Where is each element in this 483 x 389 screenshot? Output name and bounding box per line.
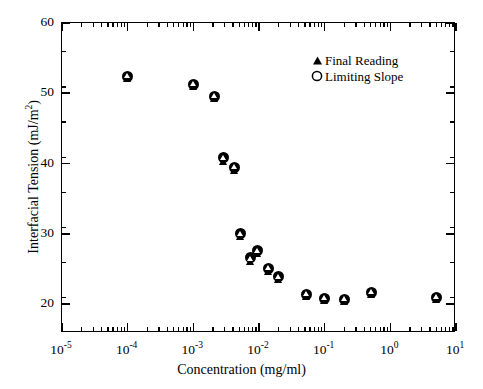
x-axis-minor-tick bbox=[158, 23, 159, 27]
x-axis-title: Concentration (mg/ml) bbox=[0, 362, 483, 378]
x-axis-minor-tick bbox=[186, 327, 187, 331]
x-axis-minor-tick bbox=[355, 327, 356, 331]
triangle-marker-inner bbox=[247, 256, 253, 261]
x-axis-minor-tick bbox=[304, 327, 305, 331]
x-axis-minor-tick bbox=[167, 327, 168, 331]
x-axis-minor-tick bbox=[248, 23, 249, 27]
triangle-marker bbox=[264, 267, 272, 275]
x-axis-minor-tick bbox=[445, 327, 446, 331]
x-axis-minor-tick bbox=[93, 23, 94, 27]
triangle-marker bbox=[320, 296, 328, 304]
y-axis-minor-tick bbox=[450, 121, 454, 122]
chart-legend: Final Reading Limiting Slope bbox=[310, 52, 403, 84]
x-axis-minor-tick bbox=[370, 327, 371, 331]
triangle-marker-inner bbox=[303, 291, 309, 296]
x-axis-tick bbox=[61, 323, 63, 331]
y-axis-tick bbox=[62, 233, 70, 235]
x-axis-minor-tick bbox=[314, 23, 315, 27]
x-axis-minor-tick bbox=[364, 23, 365, 27]
x-axis-minor-tick bbox=[173, 327, 174, 331]
triangle-marker bbox=[219, 157, 227, 165]
x-axis-minor-tick bbox=[449, 327, 450, 331]
triangle-marker-inner bbox=[275, 274, 281, 279]
triangle-icon bbox=[310, 55, 324, 66]
x-axis-minor-tick bbox=[387, 327, 388, 331]
x-axis-tick-label: 10-2 bbox=[247, 341, 268, 356]
x-axis-minor-tick bbox=[436, 327, 437, 331]
triangle-marker-inner bbox=[231, 164, 237, 169]
x-axis-tick bbox=[390, 23, 392, 31]
x-axis-minor-tick bbox=[318, 23, 319, 27]
x-axis-minor-tick bbox=[321, 327, 322, 331]
x-axis-tick bbox=[258, 23, 260, 31]
x-axis-minor-tick bbox=[190, 23, 191, 27]
x-axis-minor-tick bbox=[278, 327, 279, 331]
y-axis-tick bbox=[446, 163, 454, 165]
x-axis-minor-tick bbox=[355, 23, 356, 27]
triangle-marker-inner bbox=[124, 73, 130, 78]
triangle-marker bbox=[253, 249, 261, 257]
x-axis-minor-tick bbox=[81, 327, 82, 331]
x-axis-minor-tick bbox=[298, 327, 299, 331]
x-axis-minor-tick bbox=[314, 327, 315, 331]
x-axis-minor-tick bbox=[239, 23, 240, 27]
y-axis-minor-tick bbox=[450, 86, 454, 87]
triangle-marker-inner bbox=[211, 93, 217, 98]
x-axis-minor-tick bbox=[364, 327, 365, 331]
y-axis-title-text: Interfacial Tension (mJ/m bbox=[26, 109, 41, 253]
x-axis-minor-tick bbox=[224, 23, 225, 27]
x-axis-minor-tick bbox=[183, 23, 184, 27]
x-axis-minor-tick bbox=[147, 23, 148, 27]
x-axis-minor-tick bbox=[124, 327, 125, 331]
x-axis-minor-tick bbox=[178, 23, 179, 27]
x-axis-minor-tick bbox=[344, 327, 345, 331]
triangle-marker bbox=[367, 290, 375, 298]
y-axis-minor-tick bbox=[62, 121, 66, 122]
x-axis-tick bbox=[193, 323, 195, 331]
y-axis-tick bbox=[62, 163, 70, 165]
x-axis-minor-tick bbox=[190, 327, 191, 331]
y-axis-minor-tick bbox=[450, 262, 454, 263]
triangle-marker bbox=[236, 232, 244, 240]
y-axis-tick bbox=[62, 22, 70, 24]
x-axis-minor-tick bbox=[158, 327, 159, 331]
legend-label-final-reading: Final Reading bbox=[324, 53, 398, 68]
triangle-marker bbox=[210, 94, 218, 102]
x-axis-minor-tick bbox=[124, 23, 125, 27]
x-axis-minor-tick bbox=[183, 327, 184, 331]
x-axis-minor-tick bbox=[248, 327, 249, 331]
x-axis-minor-tick bbox=[370, 23, 371, 27]
legend-entry-final-reading: Final Reading bbox=[310, 52, 403, 68]
triangle-marker-inner bbox=[341, 296, 347, 301]
x-axis-tick bbox=[390, 323, 392, 331]
x-axis-minor-tick bbox=[298, 23, 299, 27]
x-axis-minor-tick bbox=[441, 327, 442, 331]
x-axis-tick-label: 100 bbox=[380, 341, 398, 356]
x-axis-minor-tick bbox=[387, 23, 388, 27]
x-axis-minor-tick bbox=[101, 327, 102, 331]
x-axis-minor-tick bbox=[304, 23, 305, 27]
x-axis-minor-tick bbox=[409, 327, 410, 331]
triangle-marker bbox=[340, 297, 348, 305]
x-axis-minor-tick bbox=[421, 23, 422, 27]
x-axis-tick bbox=[193, 23, 195, 31]
x-axis-minor-tick bbox=[239, 327, 240, 331]
chart-figure: 2030405060 10-510-410-310-210-1100101 In… bbox=[0, 0, 483, 389]
triangle-marker-inner bbox=[368, 289, 374, 294]
triangle-marker bbox=[274, 275, 282, 283]
legend-label-limiting-slope: Limiting Slope bbox=[324, 69, 403, 84]
y-axis-tick bbox=[446, 92, 454, 94]
x-axis-minor-tick bbox=[375, 23, 376, 27]
x-axis-minor-tick bbox=[452, 327, 453, 331]
x-axis-tick bbox=[61, 23, 63, 31]
x-axis-minor-tick bbox=[436, 23, 437, 27]
x-axis-minor-tick bbox=[232, 327, 233, 331]
x-axis-minor-tick bbox=[147, 327, 148, 331]
x-axis-minor-tick bbox=[117, 23, 118, 27]
x-axis-minor-tick bbox=[278, 23, 279, 27]
circle-icon bbox=[310, 70, 324, 82]
x-axis-tick-label: 10-5 bbox=[50, 341, 71, 356]
x-axis-minor-tick bbox=[112, 23, 113, 27]
x-axis-tick bbox=[455, 323, 457, 331]
triangle-marker-inner bbox=[321, 295, 327, 300]
